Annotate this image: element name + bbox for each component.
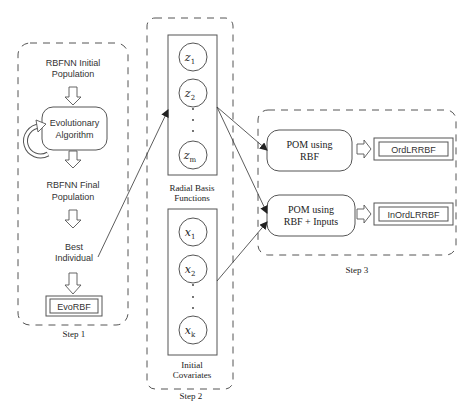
methodology-diagram: RBFNN Initial Population Evolutionary Al… xyxy=(0,0,474,417)
best-individual-label-2: Individual xyxy=(55,253,93,263)
rbf-node-z1: z1 xyxy=(179,43,207,71)
step1-group: RBFNN Initial Population Evolutionary Al… xyxy=(18,43,128,339)
covariate-group-label-1: Initial xyxy=(181,360,203,370)
covariate-node-x2: x2 xyxy=(179,255,207,283)
step2-label: Step 2 xyxy=(180,391,203,401)
evorbf-label: EvoRBF xyxy=(57,302,91,312)
pom-rbf-inputs-label-2: RBF + Inputs xyxy=(284,216,339,227)
down-arrow-icon xyxy=(65,210,81,228)
pom-rbf-label-2: RBF xyxy=(300,151,319,162)
covariate-node-x1: x1 xyxy=(179,218,207,246)
rbf-node-zm: zm xyxy=(179,141,207,169)
down-arrow-icon xyxy=(65,273,81,294)
rbf-node-z2: z2 xyxy=(179,79,207,107)
final-population-label-2: Population xyxy=(52,192,95,202)
step3-label: Step 3 xyxy=(346,265,369,275)
step2-group: z1 z2 zm Radial Basis Functions x1 x2 xyxy=(147,18,233,401)
step3-group: POM using RBF OrdLRRBF POM using RBF + I… xyxy=(258,110,456,275)
final-population-label-1: RBFNN Final xyxy=(46,180,99,190)
pom-rbf-label-1: POM using xyxy=(287,139,333,150)
down-arrow-icon xyxy=(65,87,81,105)
right-arrow-icon xyxy=(357,140,371,158)
ea-label-1: Evolutionary xyxy=(50,118,100,128)
right-arrow-icon xyxy=(357,205,371,223)
down-arrow-icon xyxy=(65,151,81,168)
rbf-to-pom1-arrow xyxy=(217,107,267,150)
ea-label-2: Algorithm xyxy=(55,130,93,140)
covariate-node-xk: xk xyxy=(179,316,207,344)
covariate-group-label-2: Covariates xyxy=(173,370,212,380)
best-to-rbf-arrow xyxy=(98,110,168,257)
ordlrrbf-label: OrdLRRBF xyxy=(391,145,436,155)
rbf-to-pom2-arrow xyxy=(217,107,267,213)
step1-label: Step 1 xyxy=(63,329,86,339)
best-individual-label-1: Best xyxy=(65,242,84,252)
evolutionary-algorithm-box xyxy=(42,107,107,150)
covariates-to-pom2-arrow xyxy=(217,222,267,281)
initial-population-label-2: Population xyxy=(52,69,95,79)
pom-rbf-inputs-label-1: POM using xyxy=(288,204,334,215)
rbf-group-label-2: Functions xyxy=(174,193,210,203)
inordlrrbf-label: InOrdLRRBF xyxy=(387,210,440,220)
rbf-group-label-1: Radial Basis xyxy=(169,183,215,193)
initial-population-label-1: RBFNN Initial xyxy=(46,58,101,68)
